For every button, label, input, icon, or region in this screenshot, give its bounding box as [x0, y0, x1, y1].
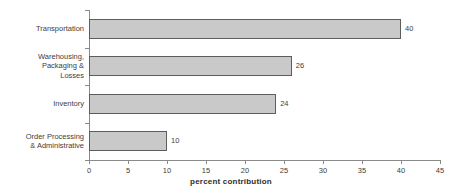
x-tick-label: 10 [157, 166, 177, 175]
x-tick-label: 5 [118, 166, 138, 175]
y-tick [85, 48, 89, 49]
x-tick [206, 160, 207, 164]
x-tick [128, 160, 129, 164]
x-tick-label: 35 [352, 166, 372, 175]
y-tick [85, 123, 89, 124]
x-tick-label: 45 [430, 166, 450, 175]
category-label: Warehousing,Packaging &Losses [2, 52, 84, 81]
category-label-line: Packaging & [2, 61, 84, 71]
category-label: Order Processing& Administrative [2, 132, 84, 151]
x-tick-label: 0 [79, 166, 99, 175]
x-tick [401, 160, 402, 164]
bar [89, 94, 276, 114]
y-tick [85, 10, 89, 11]
x-tick [440, 160, 441, 164]
x-tick [245, 160, 246, 164]
x-tick-label: 30 [313, 166, 333, 175]
category-label-line: Order Processing [2, 132, 84, 142]
x-tick [284, 160, 285, 164]
bar-value-label: 24 [280, 94, 288, 114]
x-tick-label: 20 [235, 166, 255, 175]
category-label: Transportation [2, 24, 84, 34]
category-label-line: Losses [2, 71, 84, 81]
x-tick [167, 160, 168, 164]
category-label-line: Warehousing, [2, 52, 84, 62]
x-tick-label: 40 [391, 166, 411, 175]
category-label-line: Inventory [2, 99, 84, 109]
bar-value-label: 40 [405, 19, 413, 39]
bar [89, 56, 292, 76]
x-axis-line [89, 160, 441, 161]
bar [89, 131, 167, 151]
bar [89, 19, 401, 39]
y-tick [85, 85, 89, 86]
bar-value-label: 10 [171, 131, 179, 151]
category-label: Inventory [2, 99, 84, 109]
x-tick [362, 160, 363, 164]
category-label-line: & Administrative [2, 141, 84, 151]
bar-chart: TransportationWarehousing,Packaging &Los… [0, 0, 462, 192]
x-tick-label: 15 [196, 166, 216, 175]
x-tick [89, 160, 90, 164]
x-tick [323, 160, 324, 164]
x-axis-title: percent contribution [0, 177, 462, 186]
x-tick-label: 25 [274, 166, 294, 175]
bar-value-label: 26 [296, 56, 304, 76]
category-label-line: Transportation [2, 24, 84, 34]
